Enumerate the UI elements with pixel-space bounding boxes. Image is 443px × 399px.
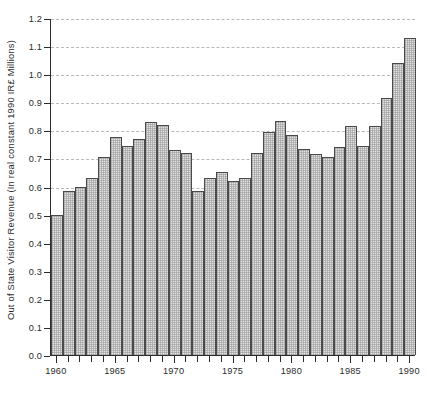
bar-1968	[145, 122, 157, 355]
x-tick-label-1975: 1975	[213, 366, 253, 376]
y-tick-label-0.7: 0.7	[18, 154, 42, 164]
y-tick-label-0.1: 0.1	[18, 323, 42, 333]
x-tick-1990	[409, 356, 410, 363]
y-axis-title: Out of State Visitor Revenue (In real co…	[0, 0, 22, 360]
bar-1977	[251, 153, 263, 355]
x-tick-1986	[362, 356, 363, 362]
y-tick-label-1.0: 1.0	[18, 70, 42, 80]
x-tick-1985	[350, 356, 351, 363]
x-tick-1971	[185, 356, 186, 362]
x-tick-1975	[233, 356, 234, 363]
bar-1966	[122, 146, 134, 355]
bar-1980	[286, 135, 298, 355]
x-tick-1981	[303, 356, 304, 362]
x-tick-1983	[327, 356, 328, 362]
bar-1973	[204, 178, 216, 355]
x-tick-1964	[103, 356, 104, 362]
y-tick-label-1.2: 1.2	[18, 14, 42, 24]
x-tick-1987	[374, 356, 375, 362]
y-tick-label-0.5: 0.5	[18, 211, 42, 221]
bar-1988	[381, 98, 393, 355]
plot-area	[50, 19, 415, 356]
y-tick-label-0.6: 0.6	[18, 183, 42, 193]
bar-1979	[275, 121, 287, 356]
x-tick-1978	[268, 356, 269, 362]
bar-1983	[322, 157, 334, 355]
bar-1985	[345, 126, 357, 355]
x-tick-1972	[197, 356, 198, 362]
bar-1981	[298, 149, 310, 355]
bar-chart: Out of State Visitor Revenue (In real co…	[0, 0, 443, 399]
bar-1961	[63, 191, 75, 355]
bar-1976	[239, 178, 251, 355]
x-tick-1973	[209, 356, 210, 362]
x-tick-1970	[174, 356, 175, 363]
x-tick-label-1980: 1980	[271, 366, 311, 376]
bar-1986	[357, 146, 369, 355]
x-tick-1979	[280, 356, 281, 362]
y-tick-label-0.0: 0.0	[18, 351, 42, 361]
y-tick-label-0.9: 0.9	[18, 98, 42, 108]
bar-1987	[369, 126, 381, 355]
x-tick-1961	[68, 356, 69, 362]
x-tick-1988	[386, 356, 387, 362]
x-tick-label-1990: 1990	[389, 366, 429, 376]
x-tick-1974	[221, 356, 222, 362]
y-tick-0.0	[44, 356, 50, 357]
x-tick-1962	[79, 356, 80, 362]
x-tick-1984	[338, 356, 339, 362]
x-tick-1976	[244, 356, 245, 362]
x-tick-1980	[291, 356, 292, 363]
bar-1965	[110, 137, 122, 355]
y-axis-title-text: Out of State Visitor Revenue (In real co…	[6, 40, 16, 320]
y-tick-label-1.1: 1.1	[18, 42, 42, 52]
bar-1971	[181, 153, 193, 355]
bar-1972	[192, 191, 204, 355]
bar-1970	[169, 150, 181, 355]
bar-1967	[133, 139, 145, 355]
x-tick-label-1970: 1970	[154, 366, 194, 376]
bar-1974	[216, 172, 228, 355]
x-tick-1966	[127, 356, 128, 362]
x-tick-1967	[138, 356, 139, 362]
x-tick-1963	[91, 356, 92, 362]
bar-1975	[228, 181, 240, 355]
x-tick-label-1960: 1960	[36, 366, 76, 376]
x-tick-1969	[162, 356, 163, 362]
bar-1989	[392, 63, 404, 355]
x-tick-label-1985: 1985	[330, 366, 370, 376]
x-tick-1982	[315, 356, 316, 362]
bar-1964	[98, 157, 110, 355]
y-tick-label-0.2: 0.2	[18, 295, 42, 305]
bar-1984	[334, 147, 346, 355]
bar-1982	[310, 154, 322, 355]
y-tick-label-0.4: 0.4	[18, 239, 42, 249]
x-tick-1960	[56, 356, 57, 363]
bar-1978	[263, 132, 275, 355]
bar-1963	[86, 178, 98, 355]
bar-1990	[404, 38, 416, 355]
y-tick-label-0.3: 0.3	[18, 267, 42, 277]
x-tick-1965	[115, 356, 116, 363]
x-tick-1968	[150, 356, 151, 362]
x-tick-label-1965: 1965	[95, 366, 135, 376]
y-tick-label-0.8: 0.8	[18, 126, 42, 136]
x-tick-1989	[397, 356, 398, 362]
bar-1960	[51, 215, 63, 355]
x-tick-1977	[256, 356, 257, 362]
bar-1969	[157, 125, 169, 355]
bar-1962	[75, 187, 87, 356]
bars-container	[51, 19, 415, 355]
